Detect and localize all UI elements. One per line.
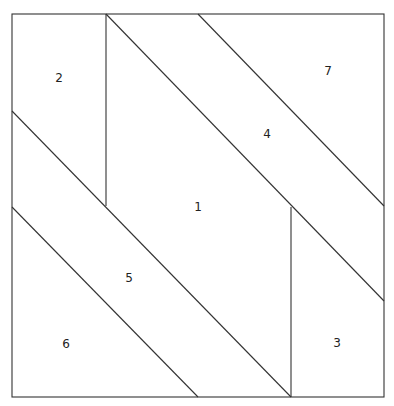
region-label-1: 1 <box>194 200 202 214</box>
region-labels: 1234567 <box>55 64 341 351</box>
region-label-4: 4 <box>263 127 271 141</box>
region-label-6: 6 <box>62 337 70 351</box>
region-label-3: 3 <box>333 336 341 350</box>
line-diagonal-c <box>106 14 384 301</box>
region-label-7: 7 <box>324 64 332 78</box>
line-diagonal-d <box>198 14 384 206</box>
line-diagonal-a <box>12 111 291 397</box>
line-diagonal-b <box>12 207 198 397</box>
region-label-5: 5 <box>125 271 133 285</box>
quilt-diagram: 1234567 <box>0 0 394 406</box>
region-label-2: 2 <box>55 71 63 85</box>
